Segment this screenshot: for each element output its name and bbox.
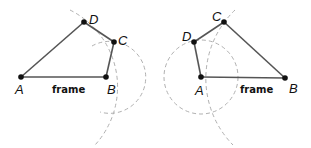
left-label-b: B bbox=[107, 82, 116, 97]
right-linkage: A B C D frame bbox=[164, 9, 298, 145]
left-label-d: D bbox=[89, 12, 98, 27]
left-label-c: C bbox=[118, 33, 128, 48]
left-joint-b bbox=[103, 74, 109, 80]
left-joint-d bbox=[81, 19, 87, 25]
left-linkage: A B C D frame bbox=[14, 10, 146, 145]
right-label-b: B bbox=[289, 81, 298, 96]
right-link-cd bbox=[194, 22, 224, 42]
right-label-a: A bbox=[194, 83, 204, 98]
left-link-da bbox=[21, 22, 84, 77]
left-link-bc bbox=[106, 42, 114, 77]
right-link-da bbox=[194, 42, 201, 77]
right-joint-b bbox=[282, 75, 288, 81]
left-joint-c bbox=[111, 39, 117, 45]
left-label-a: A bbox=[14, 82, 24, 97]
left-frame-label: frame bbox=[52, 84, 85, 95]
right-label-c: C bbox=[212, 9, 222, 24]
right-link-bc bbox=[224, 22, 285, 78]
right-joint-d bbox=[191, 39, 197, 45]
right-frame-label: frame bbox=[240, 84, 273, 95]
four-bar-linkage-diagram: A B C D frame A B C D frame bbox=[0, 0, 311, 148]
right-link-ab-frame bbox=[201, 77, 285, 78]
right-label-d: D bbox=[182, 29, 191, 44]
right-joint-a bbox=[198, 74, 204, 80]
left-joint-a bbox=[18, 74, 24, 80]
right-joint-c bbox=[221, 19, 227, 25]
